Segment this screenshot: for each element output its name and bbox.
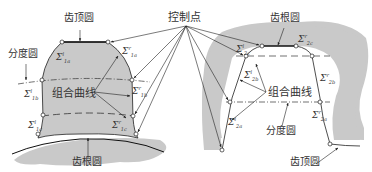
- segment-label-1a-right: Σr1a: [122, 46, 137, 58]
- segment-label-1a-left: Σl1a: [56, 52, 70, 64]
- segment-label-2c-left: Σl2c: [236, 44, 250, 56]
- right-composite-curve-label: 组合曲线: [268, 87, 312, 98]
- left-root-circle-label: 齿根圆: [72, 157, 102, 167]
- segment-label-1b-right: Σr1b: [132, 86, 147, 98]
- segment-label-2a-right: Σr2a: [312, 110, 327, 122]
- right-pitch-circle-label: 分度圆: [266, 126, 296, 136]
- left-pitch-circle-label: 分度圆: [8, 49, 38, 59]
- segment-label-2b-right: Σr2b: [320, 73, 335, 85]
- right-root-circle-label: 齿根圆: [270, 13, 300, 23]
- segment-label-2b-left: Σl2b: [244, 70, 258, 82]
- segment-label-1b-left: Σl1b: [24, 89, 38, 101]
- segment-label-2a-left: Σl2a: [228, 117, 242, 129]
- right-tip-circle-label: 齿顶圆: [290, 157, 320, 167]
- segment-label-2c-right: Σr2c: [298, 34, 313, 46]
- segment-label-1c-right: Σr1c: [112, 120, 127, 132]
- control-points-label: 控制点: [168, 12, 201, 23]
- gear-profile-diagram: 控制点 齿顶圆 分度圆 组合曲线 齿根圆 Σl1a Σr1a Σl1b Σr1b…: [0, 0, 372, 172]
- left-tip-circle-label: 齿顶圆: [64, 13, 94, 23]
- left-composite-curve-label: 组合曲线: [52, 88, 96, 99]
- segment-label-1c-left: Σl1c: [28, 120, 42, 132]
- diagram-canvas: [0, 0, 372, 172]
